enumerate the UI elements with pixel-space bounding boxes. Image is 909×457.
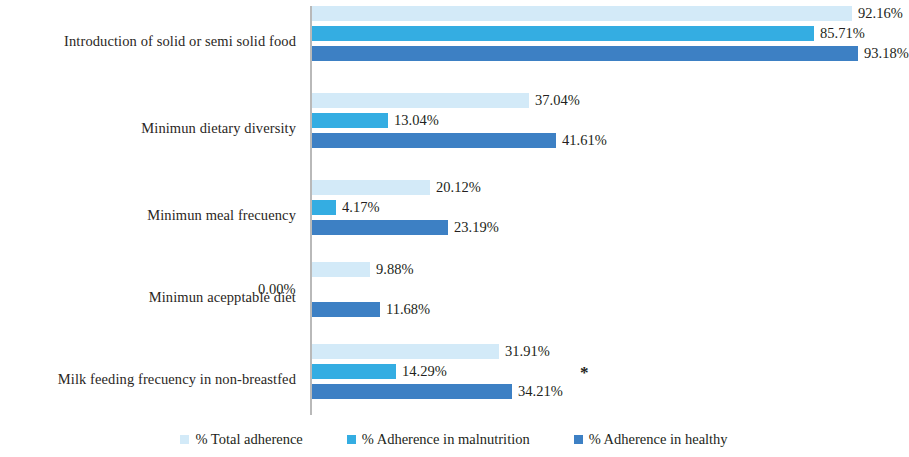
plot-area: Introduction of solid or semi solid food… [0,0,908,420]
legend-label: % Adherence in malnutrition [362,431,530,447]
bar-adherence-malnutrition [312,364,396,379]
bar-value-label: 92.16% [858,4,903,22]
significance-asterisk-icon: * [580,364,589,381]
legend-swatch-icon [180,435,189,444]
bar-value-label: 85.71% [820,24,865,42]
bar-value-label: 11.68% [386,300,430,318]
bar-value-label: 13.04% [394,111,439,129]
legend-swatch-icon [574,435,583,444]
legend-swatch-icon [347,435,356,444]
bar-total-adherence [312,93,529,108]
bar-total-adherence [312,344,499,359]
bar-total-adherence [312,6,852,21]
bar-value-label: 93.18% [864,44,909,62]
bar-value-label: 31.91% [505,342,550,360]
bar-adherence-healthy [312,46,858,61]
bar-adherence-healthy [312,302,380,317]
legend-label: % Adherence in healthy [589,431,728,447]
legend-item-adherence-healthy[interactable]: % Adherence in healthy [574,431,728,447]
category-label: Minimun meal frecuency [0,208,296,224]
bar-value-label: 23.19% [454,218,499,236]
bar-value-label: 4.17% [342,198,379,216]
bar-value-label: 37.04% [535,91,580,109]
bar-adherence-malnutrition [312,26,814,41]
bar-total-adherence [312,180,430,195]
bar-value-label: 0.00% [258,280,295,298]
category-label: Minimun dietary diversity [0,121,296,137]
bar-total-adherence [312,262,370,277]
legend-label: % Total adherence [195,431,302,447]
legend-item-adherence-malnutrition[interactable]: % Adherence in malnutrition [347,431,530,447]
bar-adherence-malnutrition [312,200,336,215]
category-label: Milk feeding frecuency in non-breastfed [0,372,296,388]
bar-adherence-healthy [312,133,556,148]
bar-adherence-malnutrition [312,113,388,128]
bar-value-label: 34.21% [518,382,563,400]
chart-legend: % Total adherence % Adherence in malnutr… [0,427,908,451]
bar-value-label: 20.12% [436,178,481,196]
bar-adherence-healthy [312,220,448,235]
legend-item-total-adherence[interactable]: % Total adherence [180,431,302,447]
bar-value-label: 14.29% [402,362,447,380]
category-label: Minimun acepptable diet [0,290,296,306]
bar-value-label: 9.88% [376,260,413,278]
bar-adherence-healthy [312,384,512,399]
category-label: Introduction of solid or semi solid food [0,34,296,50]
bar-value-label: 41.61% [562,131,607,149]
